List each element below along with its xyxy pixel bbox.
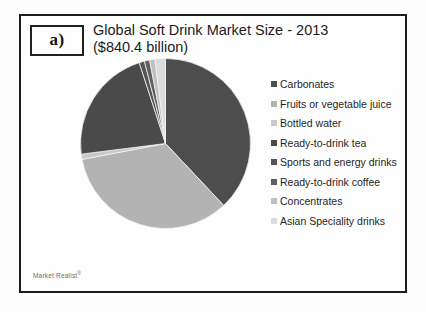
legend-swatch-icon xyxy=(271,140,277,146)
legend-label: Concentrates xyxy=(280,195,342,207)
legend-label: Asian Speciality drinks xyxy=(280,215,385,227)
legend-item: Ready-to-drink coffee xyxy=(271,176,411,188)
chart-title: Global Soft Drink Market Size - 2013 ($8… xyxy=(93,22,383,56)
legend-label: Ready-to-drink tea xyxy=(280,137,366,149)
legend-swatch-icon xyxy=(271,218,277,224)
chart-title-line2: ($840.4 billion) xyxy=(93,39,383,56)
legend-item: Bottled water xyxy=(271,117,411,129)
watermark-text: Market Realist xyxy=(33,272,77,279)
legend-swatch-icon xyxy=(271,198,277,204)
legend-item: Concentrates xyxy=(271,195,411,207)
legend-label: Sports and energy drinks xyxy=(280,156,397,168)
legend-item: Fruits or vegetable juice xyxy=(271,98,411,110)
legend-item: Ready-to-drink tea xyxy=(271,137,411,149)
legend-swatch-icon xyxy=(271,120,277,126)
legend-label: Fruits or vegetable juice xyxy=(280,98,391,110)
legend-label: Ready-to-drink coffee xyxy=(280,176,380,188)
legend-label: Bottled water xyxy=(280,117,341,129)
panel-label: a) xyxy=(49,30,64,50)
watermark: Market Realist® xyxy=(33,270,81,279)
legend-item: Asian Speciality drinks xyxy=(271,215,411,227)
legend-swatch-icon xyxy=(271,159,277,165)
pie-chart-svg xyxy=(78,56,253,231)
panel-label-box: a) xyxy=(30,25,84,56)
pie-chart xyxy=(78,56,253,231)
chart-legend: CarbonatesFruits or vegetable juiceBottl… xyxy=(271,78,411,234)
legend-swatch-icon xyxy=(271,101,277,107)
legend-swatch-icon xyxy=(271,179,277,185)
figure-page: a) Global Soft Drink Market Size - 2013 … xyxy=(0,0,426,312)
chart-title-line1: Global Soft Drink Market Size - 2013 xyxy=(93,22,328,38)
watermark-mark: ® xyxy=(77,270,81,276)
legend-item: Sports and energy drinks xyxy=(271,156,411,168)
legend-item: Carbonates xyxy=(271,78,411,90)
legend-label: Carbonates xyxy=(280,78,334,90)
legend-swatch-icon xyxy=(271,81,277,87)
figure-frame: a) Global Soft Drink Market Size - 2013 … xyxy=(19,14,407,293)
